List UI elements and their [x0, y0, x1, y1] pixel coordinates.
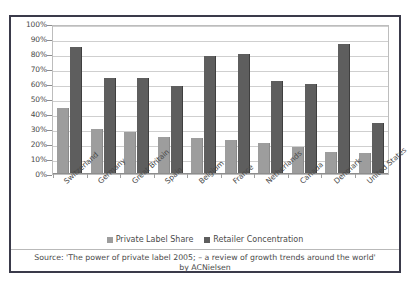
y-axis-tick-mark	[47, 55, 52, 56]
bar-retailer-concentration	[171, 86, 183, 175]
y-axis-tick-label: 10%	[31, 156, 47, 164]
source-line-1: Source: 'The power of private label 2005…	[11, 253, 399, 263]
plot-box	[52, 25, 389, 175]
y-axis-tick-mark	[47, 115, 52, 116]
source-note: Source: 'The power of private label 2005…	[11, 249, 399, 273]
chart-legend: Private Label ShareRetailer Concentratio…	[11, 235, 399, 244]
y-axis-tick-label: 100%	[26, 21, 47, 29]
bar-group	[321, 26, 355, 174]
bar-private-label-share	[191, 138, 203, 174]
y-axis-tick-mark	[47, 130, 52, 131]
bar-private-label-share	[258, 143, 270, 175]
bar-retailer-concentration	[204, 56, 216, 175]
y-axis-tick-label: 80%	[31, 51, 47, 59]
y-axis-tick-label: 0%	[35, 171, 47, 179]
y-axis-tick-label: 40%	[31, 111, 47, 119]
top-artifact-speck	[198, 1, 204, 6]
y-axis-tick-mark	[47, 25, 52, 26]
bar-retailer-concentration	[271, 81, 283, 174]
y-axis-tick-label: 30%	[31, 126, 47, 134]
bar-private-label-share	[225, 140, 237, 175]
y-axis-tick-mark	[47, 40, 52, 41]
legend-swatch-icon	[107, 237, 113, 243]
bar-retailer-concentration	[238, 54, 250, 174]
y-axis-tick-mark	[47, 175, 52, 176]
y-axis-tick-label: 50%	[31, 96, 47, 104]
chart-screenshot: 100%90%80%70%60%50%40%30%20%10%0% Switze…	[0, 0, 411, 283]
y-axis-tick-label: 70%	[31, 66, 47, 74]
y-axis-tick-label: 20%	[31, 141, 47, 149]
source-line-2: by ACNielsen	[11, 263, 399, 273]
bar-group	[120, 26, 154, 174]
y-axis-tick-mark	[47, 70, 52, 71]
y-axis-tick-mark	[47, 145, 52, 146]
y-axis-tick-label: 90%	[31, 36, 47, 44]
bar-private-label-share	[124, 132, 136, 174]
bar-retailer-concentration	[338, 44, 350, 175]
bar-group	[355, 26, 389, 174]
y-axis-labels: 100%90%80%70%60%50%40%30%20%10%0%	[11, 17, 51, 175]
bar-private-label-share	[325, 152, 337, 175]
bar-group	[53, 26, 87, 174]
bar-retailer-concentration	[104, 78, 116, 174]
bar-group	[221, 26, 255, 174]
y-axis-tick-mark	[47, 160, 52, 161]
bar-group	[254, 26, 288, 174]
legend-item: Retailer Concentration	[204, 235, 303, 244]
y-axis-tick-mark	[47, 100, 52, 101]
bar-retailer-concentration	[137, 78, 149, 174]
legend-item: Private Label Share	[107, 235, 194, 244]
plot-area: 100%90%80%70%60%50%40%30%20%10%0% Switze…	[11, 17, 399, 187]
bar-private-label-share	[57, 108, 69, 174]
bar-group	[187, 26, 221, 174]
bars-layer	[53, 26, 388, 174]
bar-retailer-concentration	[70, 47, 82, 175]
x-axis-category-labels: SwitzerlandGermanyGreat BritainSpainBelg…	[52, 177, 389, 235]
legend-label: Private Label Share	[116, 235, 194, 244]
legend-label: Retailer Concentration	[213, 235, 303, 244]
bar-retailer-concentration	[305, 84, 317, 174]
y-axis-tick-mark	[47, 85, 52, 86]
figure-frame: 100%90%80%70%60%50%40%30%20%10%0% Switze…	[9, 15, 401, 273]
legend-swatch-icon	[204, 237, 210, 243]
y-axis-tick-label: 60%	[31, 81, 47, 89]
